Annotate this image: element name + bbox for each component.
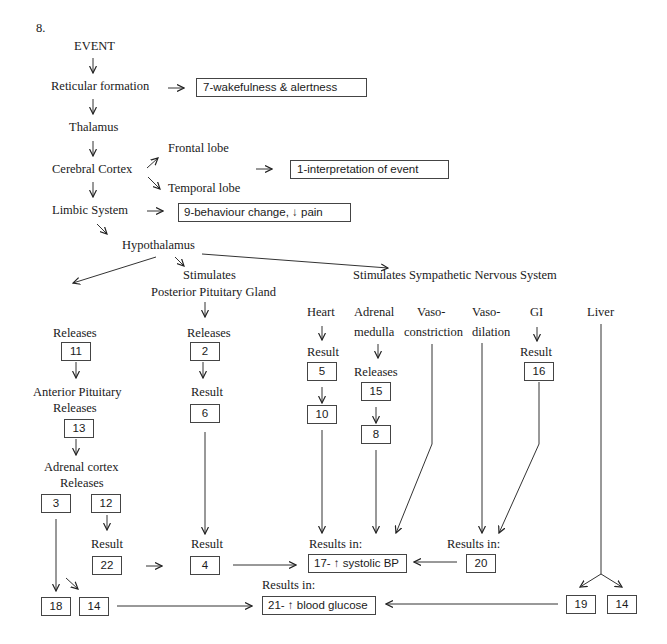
answer-box-19: 19: [566, 595, 596, 614]
answer-box-13: 13: [64, 419, 94, 438]
node-adrenal: Adrenal: [354, 305, 394, 319]
node-adrenal-cortex: Adrenal cortex: [44, 460, 119, 474]
label-releases: Releases: [53, 326, 97, 340]
answer-box-16: 16: [524, 362, 554, 381]
answer-box-21: 21- ↑ blood glucose: [262, 596, 376, 615]
node-cerebral-cortex: Cerebral Cortex: [52, 162, 132, 176]
node-thalamus: Thalamus: [69, 120, 118, 134]
label-results-in: Results in:: [309, 537, 362, 551]
answer-box-14-left: 14: [79, 597, 109, 616]
node-posterior-pituitary: Posterior Pituitary Gland: [151, 285, 276, 299]
label-results-in: Results in:: [447, 537, 500, 551]
node-hypothalamus: Hypothalamus: [122, 238, 195, 252]
answer-box-10: 10: [307, 405, 337, 424]
answer-box-9: 9-behaviour change, ↓ pain: [178, 203, 351, 222]
answer-box-2: 2: [190, 342, 220, 361]
answer-box-1: 1-interpretation of event: [290, 160, 449, 179]
node-liver: Liver: [587, 305, 614, 319]
node-reticular-formation: Reticular formation: [51, 79, 149, 93]
answer-box-4: 4: [190, 556, 220, 575]
answer-box-22: 22: [92, 556, 122, 575]
node-limbic-system: Limbic System: [52, 203, 128, 217]
answer-box-5: 5: [307, 362, 337, 381]
node-vaso: Vaso-: [472, 305, 500, 319]
answer-box-15: 15: [361, 382, 391, 401]
label-releases: Releases: [60, 476, 104, 490]
node-frontal-lobe: Frontal lobe: [168, 141, 229, 155]
node-stimulates-sns: Stimulates Sympathetic Nervous System: [353, 268, 557, 282]
answer-box-7: 7-wakefulness & alertness: [196, 78, 367, 97]
answer-box-3: 3: [41, 494, 71, 513]
answer-box-18: 18: [41, 597, 71, 616]
answer-box-20: 20: [466, 554, 496, 573]
node-event: EVENT: [74, 39, 115, 53]
label-releases: Releases: [53, 401, 97, 415]
answer-box-14-right: 14: [607, 595, 637, 614]
label-result: Result: [91, 537, 123, 551]
label-result: Result: [520, 345, 552, 359]
node-medulla: medulla: [354, 325, 394, 339]
answer-box-11: 11: [61, 342, 91, 361]
label-result: Result: [307, 345, 339, 359]
node-dilation: dilation: [472, 325, 510, 339]
node-vaso: Vaso-: [417, 305, 445, 319]
label-result: Result: [191, 537, 223, 551]
node-heart: Heart: [307, 305, 335, 319]
node-gi: GI: [530, 305, 543, 319]
node-stimulates: Stimulates: [183, 268, 236, 282]
label-releases: Releases: [187, 326, 231, 340]
label-result: Result: [191, 385, 223, 399]
question-number: 8.: [36, 21, 45, 35]
answer-box-8: 8: [361, 425, 391, 444]
answer-box-6: 6: [190, 404, 220, 423]
label-releases: Releases: [354, 365, 398, 379]
node-anterior-pituitary: Anterior Pituitary: [33, 385, 122, 399]
answer-box-12: 12: [91, 494, 121, 513]
node-constriction: constriction: [404, 325, 463, 339]
node-temporal-lobe: Temporal lobe: [168, 181, 240, 195]
answer-box-17: 17- ↑ systolic BP: [308, 554, 407, 573]
label-results-in: Results in:: [262, 578, 315, 592]
